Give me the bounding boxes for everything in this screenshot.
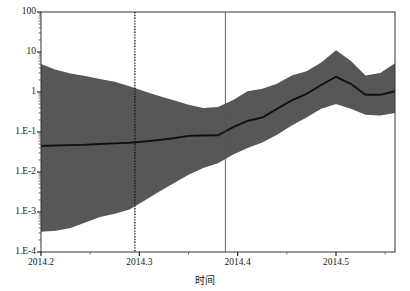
uncertainty-band <box>41 50 395 231</box>
y-axis-tick-label: 1.E-3 <box>15 206 36 216</box>
uncertainty-fan-chart: 1001011.E-11.E-21.E-31.E-42014.22014.320… <box>0 0 410 291</box>
x-axis-tick-label: 2014.3 <box>109 257 169 267</box>
y-axis-tick-label: 1 <box>31 86 36 96</box>
y-axis-tick-label: 10 <box>27 46 37 56</box>
x-axis-tick-label: 2014.5 <box>306 257 366 267</box>
chart-plot-area <box>0 0 410 291</box>
y-axis-tick-label: 1.E-2 <box>15 166 36 176</box>
x-axis-title: 时间 <box>0 272 410 287</box>
y-axis-tick-label: 1.E-4 <box>15 246 36 256</box>
x-axis-tick-label: 2014.2 <box>11 257 71 267</box>
x-axis-tick-label: 2014.4 <box>208 257 268 267</box>
y-axis-tick-label: 1.E-1 <box>15 126 36 136</box>
y-axis-tick-label: 100 <box>22 6 36 16</box>
